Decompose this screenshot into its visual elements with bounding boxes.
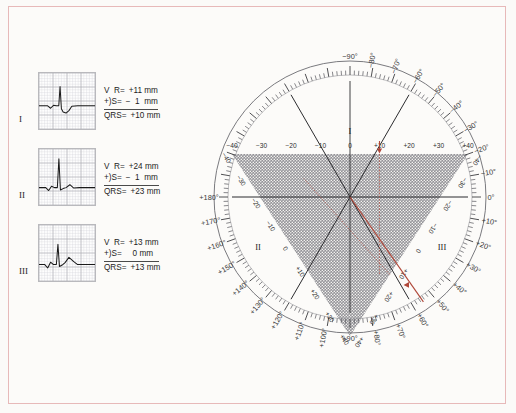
s-wave-value: 0 mm [126,249,153,258]
lead-label-ii: II [19,190,25,200]
qrs-calculation-ii: V R=+24 mm+)S=− 1 mmQRS=+23 mm [104,161,160,197]
degree-label: +140° [230,278,251,298]
lead-label-iii: III [19,266,28,276]
s-wave-value: − 1 mm [126,173,158,182]
ecg-grid [39,149,95,205]
degree-label: +150° [216,259,238,277]
r-wave-value: +24 mm [129,162,159,171]
s-wave-label: +)S= [104,249,122,258]
lead-I-tick: +20 [403,142,415,149]
lead-II-scale-tick: −40 [221,151,233,164]
degree-label: +180° [199,193,219,202]
lead-III-scale-tick: +20 [383,290,395,303]
lead-III-scale-tick: −20 [442,199,454,212]
circle-lead-label-ii: II [255,242,261,252]
axial-reference-svg: −90°−80°−70°−60°−50°−40°−30°−20°−10°0°+1… [206,46,506,356]
lead-I-down-arrow-icon [377,149,382,154]
lead-II-scale-tick: −20 [250,196,262,209]
degree-label: −80° [366,52,378,69]
lead-I-tick: −30 [256,142,268,149]
lead-I-tick: +40 [462,142,474,149]
s-wave-label: +)S= [104,97,122,106]
lead-II-scale-tick: +30 [324,310,336,323]
lead-III-scale-tick: +30 [368,313,380,326]
qrs-calculation-i: V R=+11 mm+)S=− 1 mmQRS=+10 mm [104,85,160,121]
s-wave-value: − 1 mm [126,97,158,106]
circle-lead-label-i: I [349,126,352,136]
degree-label: +30° [464,260,482,276]
degree-label: −50° [430,81,447,99]
ecg-grid [39,73,95,129]
r-wave-label: V R= [104,86,125,95]
lead-I-tick: −20 [285,142,297,149]
lead-I-tick: +30 [433,142,445,149]
lead-II-scale-tick: −30 [235,174,247,187]
lead-I-tick: 0 [348,142,352,149]
lead-II-scale-tick: +20 [309,287,321,300]
lead-III-scale-tick: −30 [457,176,469,189]
degree-label: −90° [342,52,358,61]
r-wave-value: +13 mm [129,238,159,247]
lead-I-tick: −40 [226,142,238,149]
degree-label: +40° [451,280,469,297]
qrs-calculation-iii: V R=+13 mm+)S= 0 mmQRS=+13 mm [104,237,160,273]
ecg-strip-iii [38,224,96,282]
lead-III-marker-icon [404,282,409,288]
ecg-grid [39,225,95,281]
degree-label: +130° [248,295,268,316]
lead-I-tick: −10 [315,142,327,149]
lead-label-i: I [19,114,22,124]
figure-root: IV R=+11 mm+)S=− 1 mmQRS=+10 mmIIV R=+24… [0,0,516,413]
lead-II-scale-tick: −10 [265,219,277,232]
degree-label: −70° [389,57,403,75]
degree-label: +20° [475,238,493,252]
s-wave-label: +)S= [104,173,122,182]
circle-lead-label-iii: III [438,242,447,252]
ecg-strip-i [38,72,96,130]
lead-II-scale-tick: 0 [282,245,290,252]
r-wave-label: V R= [104,162,125,171]
degree-label: +160° [206,238,228,253]
lead-III-scale-tick: 0 [415,248,423,255]
degree-label: +80° [371,330,383,347]
degree-label: +60° [415,311,431,329]
r-wave-value: +11 mm [129,86,158,95]
degree-label: −10° [480,167,497,179]
ecg-strip-ii [38,148,96,206]
degree-label: +70° [394,322,408,340]
degree-label: +50° [434,297,451,315]
degree-label: −30° [462,119,480,135]
qrs-net-label: QRS= [104,187,127,196]
degree-label: 0° [487,193,494,202]
qrs-net-value: +23 mm [131,187,161,196]
degree-label: +110° [292,321,307,342]
qrs-net-label: QRS= [104,263,127,272]
qrs-net-value: +13 mm [131,263,161,272]
lead-I-scale: −40−30−20−100+10+20+30+40 [226,142,474,149]
axial-reference-diagram: −90°−80°−70°−60°−50°−40°−30°−20°−10°0°+1… [206,46,506,356]
lead-III-scale-tick: −10 [427,222,439,235]
degree-label: +100° [317,327,329,348]
r-wave-label: V R= [104,238,125,247]
qrs-net-value: +10 mm [131,111,161,120]
qrs-net-label: QRS= [104,111,127,120]
degree-label: +120° [269,310,287,332]
